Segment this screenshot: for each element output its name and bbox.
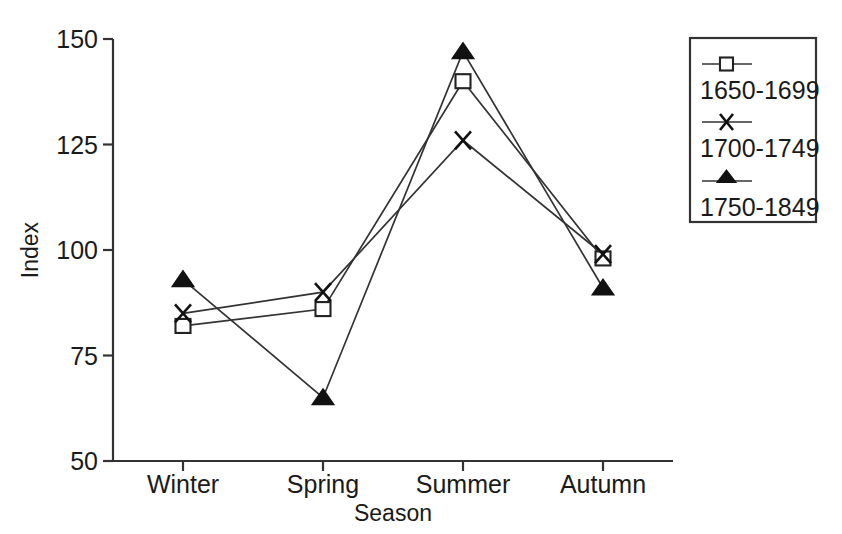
legend-label-1750-1849: 1750-1849 [700,193,820,221]
x-tick-label-autumn: Autumn [560,470,646,498]
y-tick-label-100: 100 [56,236,98,264]
x-axis-title: Season [354,500,432,526]
y-tick-label-150: 150 [56,25,98,53]
x-tick-label-summer: Summer [416,470,510,498]
x-tick-label-winter: Winter [147,470,219,498]
open-square-icon [316,302,331,316]
legend-label-1700-1749: 1700-1749 [700,134,820,162]
y-tick-label-75: 75 [70,342,98,370]
y-tick-label-50: 50 [70,447,98,475]
x-tick-label-spring: Spring [287,470,359,498]
y-axis-title: Index [17,221,43,278]
line-chart-canvas: 150 125 100 75 50 Index Winter Spring Su… [0,0,842,534]
open-square-icon [720,58,733,71]
chart-figure: 150 125 100 75 50 Index Winter Spring Su… [0,0,842,534]
chart-legend: 1650-1699 1700-1749 1750-1849 [690,38,820,222]
legend-label-1650-1699: 1650-1699 [700,76,820,104]
open-square-icon [456,74,471,88]
y-tick-label-125: 125 [56,131,98,159]
